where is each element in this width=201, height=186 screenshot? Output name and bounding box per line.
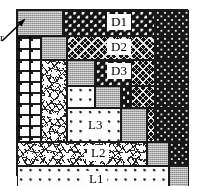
diagonal-block-1 [41,36,67,60]
label-l3: L3 [84,117,106,133]
diagonal-block-4 [121,108,147,142]
diamond-band-mid-a [131,60,155,86]
right-column-band-5 [155,108,189,142]
light-block-a [67,86,95,108]
label-d2: D2 [107,39,131,55]
diamond-band-mid-c [147,108,155,142]
diagonal-block-2 [67,60,95,86]
left-column-band [17,36,41,142]
block-matrix: D1 D2 D3 L3 L2 L1 [16,9,188,176]
diagonal-block-3 [95,86,121,108]
right-column-band-top [155,10,189,36]
label-d1: D1 [107,14,131,30]
right-column-band-4 [155,86,189,108]
right-column-band-3 [155,60,189,86]
label-l2: L2 [87,145,109,161]
figure-canvas: r [0,0,201,186]
offdiagonal-block-l2 [17,142,147,166]
diagonal-block-5 [147,142,169,166]
label-l1: L1 [85,171,107,186]
dark-block-a [121,86,131,108]
right-column-band-6 [169,142,189,166]
arrow-icon [0,14,34,44]
diagonal-block-6 [169,166,189,186]
annotation-label: r [0,31,4,43]
right-column-band-2 [155,36,189,60]
diamond-band-mid-b [131,86,155,108]
speckle-block-upper [41,60,67,142]
label-d3: D3 [107,63,131,79]
